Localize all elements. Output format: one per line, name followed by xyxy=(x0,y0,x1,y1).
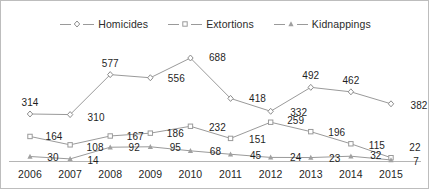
marker-extortions-2009 xyxy=(148,131,152,135)
data-label-homicides-2008: 577 xyxy=(102,57,119,68)
data-label-kidnappings-2006: 30 xyxy=(47,151,58,162)
data-label-extortions-2014: 115 xyxy=(369,139,385,150)
marker-extortions-2012 xyxy=(268,120,272,124)
data-label-extortions-2013: 196 xyxy=(328,126,345,137)
x-tick-2012: 2012 xyxy=(259,168,283,180)
data-label-kidnappings-2010: 68 xyxy=(210,145,221,156)
data-label-extortions-2015: 22 xyxy=(409,141,420,152)
marker-extortions-2010 xyxy=(188,124,192,128)
marker-extortions-2011 xyxy=(228,136,232,140)
data-label-homicides-2013: 492 xyxy=(302,70,319,81)
data-label-kidnappings-2009: 95 xyxy=(170,141,181,152)
data-label-extortions-2009: 186 xyxy=(167,128,184,139)
data-label-kidnappings-2008: 92 xyxy=(129,142,140,153)
data-label-extortions-2011: 151 xyxy=(249,134,266,145)
data-label-homicides-2014: 462 xyxy=(342,74,359,85)
data-label-homicides-2015: 382 xyxy=(411,99,428,110)
marker-homicides-2014 xyxy=(348,89,353,95)
marker-extortions-2006 xyxy=(28,134,32,138)
marker-extortions-2014 xyxy=(349,142,353,146)
data-label-extortions-2007: 108 xyxy=(87,141,104,152)
data-label-kidnappings-2014: 32 xyxy=(370,150,381,161)
marker-extortions-2013 xyxy=(309,129,313,133)
x-tick-2011: 2011 xyxy=(219,168,242,180)
marker-homicides-2015 xyxy=(388,101,393,107)
x-tick-2015: 2015 xyxy=(379,168,403,180)
x-tick-2007: 2007 xyxy=(58,168,82,180)
data-label-extortions-2008: 167 xyxy=(127,130,144,141)
marker-extortions-2007 xyxy=(68,143,72,147)
data-label-extortions-2006: 164 xyxy=(46,131,63,142)
x-tick-2008: 2008 xyxy=(98,168,122,180)
data-label-kidnappings-2007: 14 xyxy=(87,154,98,165)
data-label-kidnappings-2011: 45 xyxy=(250,150,261,161)
data-label-homicides-2009: 556 xyxy=(168,72,185,83)
data-label-kidnappings-2012: 24 xyxy=(290,152,301,163)
data-label-extortions-2012: 259 xyxy=(287,115,304,126)
data-label-kidnappings-2013: 23 xyxy=(329,152,340,163)
chart-plot-area xyxy=(1,1,429,189)
data-label-extortions-2010: 232 xyxy=(209,122,226,133)
data-label-kidnappings-2015: 7 xyxy=(413,155,419,166)
x-tick-2010: 2010 xyxy=(179,168,203,180)
marker-homicides-2013 xyxy=(308,84,313,90)
chart-container: HomicidesExtortionsKidnappings 314310577… xyxy=(0,0,429,189)
data-label-homicides-2007: 310 xyxy=(88,111,105,122)
marker-homicides-2006 xyxy=(27,111,32,117)
x-tick-2006: 2006 xyxy=(18,168,42,180)
marker-homicides-2012 xyxy=(268,108,273,114)
marker-homicides-2009 xyxy=(148,75,153,81)
data-label-homicides-2006: 314 xyxy=(22,96,39,107)
marker-extortions-2008 xyxy=(108,134,112,138)
series-line-homicides xyxy=(30,58,391,115)
x-tick-2009: 2009 xyxy=(138,168,162,180)
data-label-homicides-2011: 418 xyxy=(249,93,266,104)
x-tick-2014: 2014 xyxy=(339,168,363,180)
data-label-homicides-2010: 688 xyxy=(209,52,226,63)
x-tick-2013: 2013 xyxy=(299,168,323,180)
